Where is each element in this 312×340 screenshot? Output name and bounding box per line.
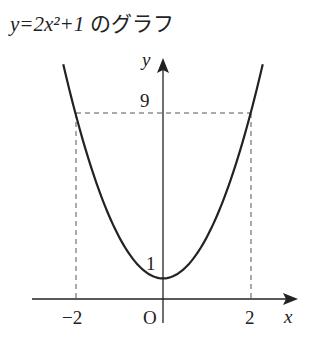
- x-axis-label: x: [283, 306, 293, 327]
- parabola-chart: y x 9 1 O −2 2: [0, 0, 312, 340]
- y-axis-label: y: [140, 49, 151, 70]
- x-tick-pos2: 2: [245, 307, 255, 328]
- y-tick-9: 9: [140, 90, 150, 111]
- origin-label: O: [143, 307, 157, 328]
- y-tick-1: 1: [146, 253, 156, 274]
- x-tick-neg2: −2: [62, 307, 82, 328]
